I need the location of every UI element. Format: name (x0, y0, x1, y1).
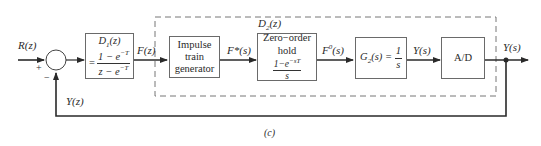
plus-sign: + (36, 63, 42, 73)
g2-block: G2(s) = 1 s (355, 37, 407, 79)
zoh-line-2: hold (278, 45, 297, 57)
d2-group-label: D2(z) (258, 18, 281, 32)
zoh-fraction: 1−e−sT s (273, 57, 302, 82)
input-label: R(z) (18, 40, 36, 51)
minus-sign: − (44, 73, 50, 83)
zoh-block: Zero−order hold 1−e−sT s (257, 33, 317, 81)
summing-junction (46, 50, 66, 70)
d1-eq: = (89, 57, 95, 69)
signal-y-s-output: Y(s) (503, 42, 521, 53)
caption: (c) (264, 128, 275, 138)
signal-y-s-inner: Y(s) (413, 45, 431, 56)
impulse-line-3: generator (175, 63, 215, 75)
g2-fraction: 1 s (395, 45, 402, 70)
signal-f0-s: F0(s) (322, 44, 344, 56)
zoh-line-1: Zero−order (263, 32, 311, 44)
impulse-line-1: Impulse (178, 39, 212, 51)
d1-title: D1(z) (98, 35, 120, 49)
impulse-line-2: train (185, 51, 204, 63)
impulse-train-block: Impulse train generator (169, 36, 220, 78)
signal-f-star-s: F*(s) (227, 45, 251, 56)
d1-block: D1(z) = 1 − e−T z − e−T (85, 33, 134, 79)
signal-f-z: F(z) (137, 45, 155, 56)
g2-label: G2(s) = (360, 51, 395, 65)
feedback-label: Y(z) (66, 96, 84, 107)
d1-fraction: 1 − e−T z − e−T (97, 49, 130, 77)
ad-block: A/D (441, 37, 485, 79)
ad-label: A/D (454, 52, 472, 64)
